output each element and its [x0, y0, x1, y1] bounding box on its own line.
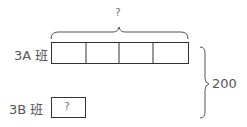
right-brace — [200, 47, 209, 118]
row-3b-segment-label: ? — [64, 100, 70, 113]
grand-total-label: 200 — [212, 76, 237, 91]
row-3a-bar — [52, 43, 189, 64]
top-brace — [51, 27, 188, 39]
row-3b-label: 3B 班 — [9, 99, 43, 118]
row-3a-label: 3A 班 — [14, 45, 48, 64]
top-total-label: ? — [115, 6, 121, 19]
